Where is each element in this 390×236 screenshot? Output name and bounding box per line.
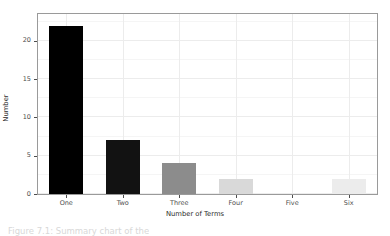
x-tick-label-four: Four <box>229 199 243 207</box>
gridline-minor-y <box>38 136 377 137</box>
gridline-minor-y <box>38 59 377 60</box>
gridline-y-0 <box>38 193 377 194</box>
gridline-minor-y <box>38 21 377 22</box>
x-tick-mark-four <box>236 195 237 198</box>
gridline-y-10 <box>38 116 377 117</box>
gridline-y-20 <box>38 40 377 41</box>
y-axis-tick-marks <box>0 0 37 236</box>
gridline-x-five <box>292 14 293 194</box>
x-axis-title: Number of Terms <box>0 210 390 218</box>
gridline-y-5 <box>38 155 377 156</box>
bar-two <box>106 140 140 194</box>
gridline-y-15 <box>38 78 377 79</box>
bar-three <box>162 163 196 194</box>
bar-four <box>219 179 253 194</box>
gridline-x-four <box>236 14 237 194</box>
x-tick-label-five: Five <box>286 199 299 207</box>
x-tick-mark-one <box>66 195 67 198</box>
x-tick-mark-six <box>349 195 350 198</box>
x-tick-mark-three <box>179 195 180 198</box>
bar-six <box>332 179 366 194</box>
bar-one <box>49 26 83 195</box>
x-tick-label-two: Two <box>117 199 129 207</box>
x-tick-mark-five <box>292 195 293 198</box>
gridline-x-six <box>349 14 350 194</box>
x-tick-mark-two <box>123 195 124 198</box>
x-tick-label-six: Six <box>344 199 354 207</box>
figure-caption: Figure 7.1: Summary chart of the <box>8 226 149 236</box>
figure-container: Number 05101520 OneTwoThreeFourFiveSix N… <box>0 0 390 236</box>
x-tick-label-three: Three <box>170 199 189 207</box>
gridline-minor-y <box>38 174 377 175</box>
plot-panel <box>37 13 378 195</box>
gridline-minor-y <box>38 97 377 98</box>
x-tick-label-one: One <box>60 199 73 207</box>
